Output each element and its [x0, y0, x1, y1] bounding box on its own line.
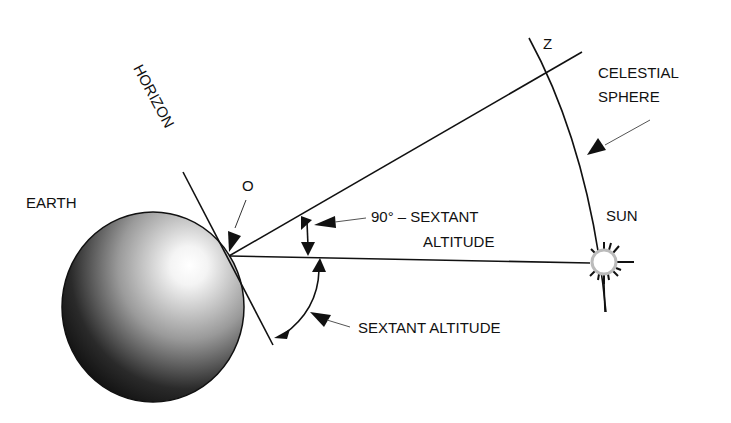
diagram-canvas: EARTH HORIZON O Z CELESTIAL SPHERE SUN 9… — [0, 0, 731, 423]
observer-pointer — [235, 200, 246, 228]
observer-label: O — [242, 177, 254, 194]
complement-label-line2: ALTITUDE — [423, 233, 494, 250]
sun-label: SUN — [606, 207, 638, 224]
complement-pointer — [335, 218, 366, 222]
zenith-line — [229, 52, 582, 256]
sun-vertical-line — [604, 284, 605, 312]
celestial-sphere-label-line2: SPHERE — [598, 88, 660, 105]
altitude-pointer — [327, 320, 350, 327]
celestial-arrowhead-icon — [587, 138, 606, 155]
complement-label-line1: 90° – SEXTANT — [371, 208, 478, 225]
observer-arrowhead-icon — [228, 231, 241, 252]
sextant-altitude-arc — [283, 270, 319, 335]
sextant-altitude-label: SEXTANT ALTITUDE — [358, 319, 501, 336]
zenith-label: Z — [543, 35, 552, 52]
horizon-label: HORIZON — [130, 61, 177, 130]
celestial-sphere-label-line1: CELESTIAL — [598, 64, 679, 81]
altitude-arrow-bottom-icon — [274, 329, 290, 339]
altitude-pointer-arrowhead-icon — [310, 312, 331, 327]
earth-label: EARTH — [26, 194, 77, 211]
sun-sightline — [229, 256, 590, 263]
complement-arrow-bottom-icon — [301, 242, 315, 256]
earth-sphere — [62, 212, 244, 402]
altitude-arrow-top-icon — [312, 258, 326, 272]
complement-pointer-arrowhead-icon — [314, 216, 336, 228]
sun-icon — [590, 242, 634, 284]
celestial-pointer — [605, 120, 650, 145]
